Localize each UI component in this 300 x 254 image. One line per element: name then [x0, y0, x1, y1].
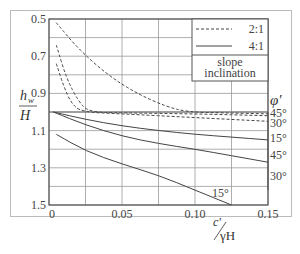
chart: 2:14:1slopeinclination0.50.70.91.11.31.5…: [0, 0, 300, 254]
legend-label-2-1: 2:1: [249, 22, 264, 36]
x-tick-label: 0.10: [185, 207, 206, 221]
x-axis-label-den: γH: [219, 228, 235, 243]
y-tick-label: 1.3: [31, 161, 46, 175]
y-tick-label: 1.5: [31, 198, 46, 212]
series-curve: [56, 134, 231, 205]
series-end-label: 45°: [270, 148, 287, 162]
series-end-label: 30°: [270, 169, 287, 183]
x-tick-label: 0.15: [258, 207, 279, 221]
y-tick-label: 1.1: [31, 124, 46, 138]
legend-label-4-1: 4:1: [249, 39, 264, 53]
y-axis-label-sub: w: [28, 95, 34, 105]
series-end-label: 15°: [212, 186, 229, 200]
x-tick-label: 0: [49, 207, 55, 221]
x-tick-label: 0.05: [112, 207, 133, 221]
y-tick-label: 0.5: [31, 12, 46, 26]
y-axis-label-h: h: [20, 88, 27, 103]
x-axis-label-num: c': [213, 215, 221, 229]
series-end-label: 15°: [270, 131, 287, 145]
y-tick-label: 0.7: [31, 49, 46, 63]
legend-title-line2: inclination: [204, 66, 255, 80]
series-end-label: 30°: [270, 116, 287, 130]
y-axis-label-H: H: [19, 108, 31, 123]
